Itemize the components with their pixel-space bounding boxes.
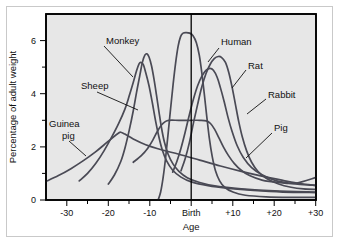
y-axis-ticks [40,41,46,200]
series-label-guinea-pig-line2: pig [62,130,75,141]
y-axis-title: Percentage of adult weight [7,50,18,163]
x-tick-label-plus10: +10 [225,208,240,218]
series-label-rabbit: Rabbit [268,89,296,100]
x-tick-label-minus30: -30 [60,208,73,218]
x-axis-tick-labels: -30 -20 -10 Birth +10 +20 +30 [60,208,323,218]
series-label-sheep: Sheep [81,80,108,91]
x-axis-title: Age [183,221,200,232]
series-label-rat: Rat [248,60,263,71]
growth-rate-chart: 0 2 4 6 Percentage of adult weight -30 -… [0,0,341,245]
x-tick-label-birth: Birth [182,208,201,218]
series-label-monkey: Monkey [106,35,140,46]
series-label-guinea-pig: Guinea [49,118,80,129]
x-tick-label-plus20: +20 [267,208,282,218]
figure-container: 0 2 4 6 Percentage of adult weight -30 -… [0,0,341,245]
x-tick-label-minus20: -20 [102,208,115,218]
x-axis-ticks [67,200,316,206]
y-tick-label-0: 0 [31,195,36,205]
x-tick-label-plus30: +30 [308,208,323,218]
series-label-human: Human [221,36,252,47]
series-label-pig: Pig [274,122,288,133]
y-tick-label-2: 2 [31,142,36,152]
x-tick-label-minus10: -10 [143,208,156,218]
y-tick-label-4: 4 [31,89,36,99]
y-axis-tick-labels: 0 2 4 6 [31,36,36,205]
y-tick-label-6: 6 [31,36,36,46]
